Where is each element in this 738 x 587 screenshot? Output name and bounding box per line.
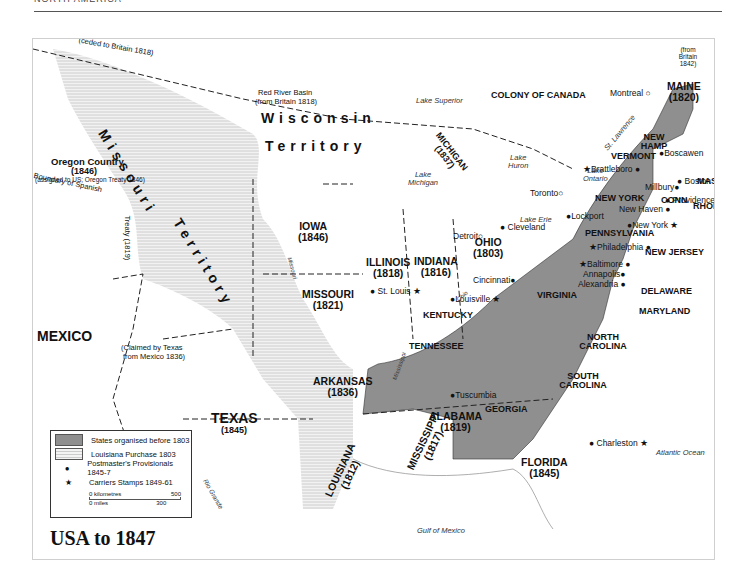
hatched-swatch-icon [55,448,83,460]
red-river-label: Red River Basin [258,89,312,97]
grey-swatch-icon [55,434,83,446]
state-new-jersey: NEW JERSEY [645,248,704,257]
from-britain-label: (from Britain 1842) [673,47,703,67]
star-icon: ★ [55,478,81,487]
city-montreal: Montreal ○ [610,89,651,98]
claimed-texas-sub-label: from Mexico 1836) [123,353,185,361]
legend-item: ● Postmaster's Provisionals 1845-7 [55,462,191,474]
city-boscawen: ●Boscawen [659,149,703,158]
state-south-carolina: SOUTH CAROLINA [553,372,613,391]
state-maryland: MARYLAND [639,307,690,316]
city-charleston: ● Charleston ★ [589,439,648,448]
dot-icon: ● [55,464,79,473]
state-pennsylvania: PENNSYLVANIA [585,229,654,238]
lake-superior-label: Lake Superior [416,97,463,105]
city-new-york: ●New York ★ [627,221,678,230]
city-new-haven: New Haven ● [619,205,670,214]
treaty-label: Treaty (1819) [123,216,131,261]
scale-bar: 0 kilometres500 0 miles300 [89,491,181,506]
lake-ontario-label: LakeOntario [583,167,608,183]
state-alabama: ALABAMA(1819) [429,411,482,433]
wisconsin-label: Wisconsin [261,111,376,126]
state-delaware: DELAWARE [641,287,692,296]
mexico-label: MEXICO [37,329,92,344]
city-boston: ● Boston ★ [677,177,715,186]
lake-huron-label: LakeHuron [508,154,528,170]
state-virginia: VIRGINIA [537,291,577,300]
city-providence: ● Providence [665,196,715,205]
canada-label: COLONY OF CANADA [491,91,586,100]
city-millbury: Millbury● [645,183,679,192]
lake-erie-label: Lake Erie [520,216,552,224]
red-river-sub-label: (from Britain 1818) [255,98,317,106]
texas-label: TEXAS [211,411,258,426]
city-baltimore: ★Baltimore ● [579,260,630,269]
legend-item: States organised before 1803 [55,434,189,446]
atlantic-ocean-label: Atlantic Ocean [656,449,705,457]
state-north-carolina: NORTH CAROLINA [573,333,633,352]
city-toronto: Toronto○ [530,189,564,198]
city-lockport: ●Lockport [566,212,604,221]
state-arkansas: ARKANSAS(1836) [313,376,373,398]
header-rule [34,11,722,12]
state-iowa: IOWA(1846) [298,221,328,243]
city-cincinnati: Cincinnati● [473,276,515,285]
legend-item: ★ Carriers Stamps 1849-61 [55,476,173,488]
claimed-texas-label: (Claimed by Texas [121,344,183,352]
state-maine: MAINE(1820) [667,81,701,103]
state-florida: FLORIDA(1845) [521,457,568,479]
state-illinois: ILLINOIS(1818) [366,257,410,279]
state-new-york: NEW YORK [595,194,644,203]
city-st-louis: ● St. Louis ★ [370,287,421,296]
wisconsin-territory-label: Territory [265,139,367,154]
gulf-of-mexico-label: Gulf of Mexico [417,527,465,535]
state-tennessee: TENNESSEE [409,342,464,351]
map-title: USA to 1847 [50,527,156,550]
state-vermont: VERMONT [611,152,656,161]
state-indiana: INDIANA(1816) [414,256,458,278]
state-kentucky: KENTUCKY [423,311,473,320]
texas-year-label: (1845) [221,426,247,435]
state-missouri: MISSOURI(1821) [302,289,354,311]
state-georgia: GEORGIA [485,405,528,414]
section-header: NORTH AMERICA [34,0,122,4]
city-cleveland: ● Cleveland [500,223,545,232]
lake-michigan-label: LakeMichigan [408,171,438,187]
city-alexandria: Alexandria ● [578,280,626,289]
city-annapolis: Annapolis● [583,270,625,279]
city-tuscumbia: ●Tuscumbia [450,391,496,400]
city-philadelphia: ★Philadelphia ● [589,243,651,252]
city-detroit: Detroit○ [453,232,483,241]
map-legend: States organised before 1803 Louisiana P… [50,430,192,518]
